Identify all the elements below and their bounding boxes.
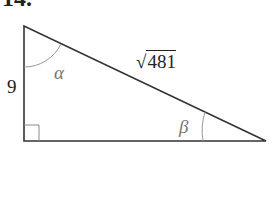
problem-number: 14. — [2, 0, 32, 10]
radical-sign: √ — [136, 51, 146, 72]
radicand: 481 — [146, 50, 176, 72]
triangle-drawing — [0, 0, 274, 202]
right-triangle-figure: 14. 9 √481 α β — [0, 0, 274, 202]
angle-beta-label: β — [179, 117, 188, 136]
angle-beta-arc — [202, 112, 205, 141]
angle-alpha-label: α — [54, 63, 64, 82]
hypotenuse-length: √481 — [136, 52, 176, 71]
vertical-side-length: 9 — [7, 77, 17, 96]
triangle-outline — [24, 26, 266, 141]
right-angle-marker — [24, 125, 39, 141]
